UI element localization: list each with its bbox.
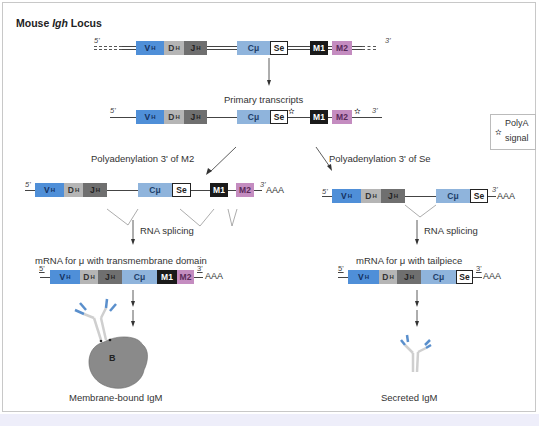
segment-cmu: Cμ bbox=[138, 183, 172, 197]
diagram-graphics bbox=[0, 0, 539, 426]
rna-line bbox=[40, 277, 50, 278]
polya-star-icon: ✫ bbox=[288, 108, 295, 116]
segment-jh: JH bbox=[381, 189, 405, 203]
segment-dh: DH bbox=[164, 110, 184, 124]
polya-tail: AAA bbox=[497, 191, 515, 201]
rna-line bbox=[25, 190, 35, 191]
dna-line bbox=[207, 46, 237, 50]
segment-dh: DH bbox=[64, 183, 83, 197]
three-prime-label: 3' bbox=[197, 264, 203, 273]
rna-line bbox=[254, 190, 262, 191]
legend-line1: PolyA bbox=[505, 118, 529, 128]
rna-line bbox=[228, 190, 236, 191]
secreted-antibody-icon bbox=[401, 335, 431, 372]
segment-vh: VH bbox=[136, 41, 164, 55]
segment-se: Se bbox=[270, 41, 288, 55]
segment-cmu: Cμ bbox=[122, 270, 157, 284]
three-prime-label: 3' bbox=[372, 106, 378, 115]
rna-splicing-right-label: RNA splicing bbox=[424, 225, 478, 236]
dashed-extension bbox=[362, 46, 376, 50]
segment-dh: DH bbox=[379, 270, 397, 284]
polya-star-icon: ✫ bbox=[354, 108, 361, 116]
segment-vh: VH bbox=[35, 183, 64, 197]
segment-jh: JH bbox=[98, 270, 122, 284]
five-prime-label: 5' bbox=[338, 264, 344, 273]
segment-cmu: Cμ bbox=[421, 270, 456, 284]
primary-transcripts-label: Primary transcripts bbox=[224, 94, 303, 105]
b-cell-label: B bbox=[109, 353, 116, 363]
five-prime-label: 5' bbox=[25, 180, 31, 189]
segment-dh: DH bbox=[361, 189, 381, 203]
dna-line bbox=[122, 46, 136, 50]
segment-vh: VH bbox=[136, 110, 164, 124]
segment-se: Se bbox=[270, 110, 288, 124]
segment-vh: VH bbox=[50, 270, 80, 284]
rna-line bbox=[107, 190, 138, 191]
segment-m1: M1 bbox=[157, 270, 177, 284]
rna-line bbox=[194, 277, 203, 278]
segment-cmu: Cμ bbox=[237, 41, 270, 55]
rna-line bbox=[488, 196, 496, 197]
segment-se: Se bbox=[456, 270, 473, 284]
segment-m2: M2 bbox=[236, 183, 254, 197]
segment-se: Se bbox=[470, 189, 488, 203]
membrane-bound-igm-label: Membrane-bound IgM bbox=[69, 392, 162, 403]
b-cell-icon bbox=[89, 337, 148, 388]
three-prime-label: 3' bbox=[260, 180, 266, 189]
legend-line2: signal bbox=[505, 133, 529, 143]
five-prime-label: 5' bbox=[322, 187, 328, 196]
rna-line bbox=[338, 277, 348, 278]
mrna-transmembrane-label: mRNA for μ with transmembrane domain bbox=[35, 255, 207, 266]
star-icon: ✫ bbox=[495, 128, 502, 137]
polya-legend: ✫ PolyA signal bbox=[490, 114, 536, 150]
segment-vh: VH bbox=[348, 270, 379, 284]
segment-vh: VH bbox=[332, 189, 361, 203]
segment-dh: DH bbox=[164, 41, 184, 55]
polya-tail: AAA bbox=[205, 271, 223, 281]
polyadenylation-se-label: Polyadenylation 3' of Se bbox=[329, 153, 431, 164]
segment-jh: JH bbox=[184, 41, 207, 55]
mrna-tailpiece-label: mRNA for μ with tailpiece bbox=[356, 255, 462, 266]
three-prime-label: 3' bbox=[385, 36, 391, 45]
five-prime-label: 5' bbox=[94, 36, 100, 45]
rna-line bbox=[352, 117, 382, 118]
rna-line bbox=[473, 277, 482, 278]
segment-m1: M1 bbox=[310, 110, 328, 124]
three-prime-label: 3' bbox=[476, 264, 482, 273]
segment-cmu: Cμ bbox=[436, 189, 470, 203]
segment-m2: M2 bbox=[332, 110, 352, 124]
segment-cmu: Cμ bbox=[237, 110, 270, 124]
rna-splicing-left-label: RNA splicing bbox=[140, 225, 194, 236]
secreted-igm-label: Secreted IgM bbox=[381, 392, 438, 403]
rna-line bbox=[110, 117, 136, 118]
five-prime-label: 5' bbox=[39, 264, 45, 273]
rna-line bbox=[207, 117, 237, 118]
segment-m2: M2 bbox=[177, 270, 194, 284]
polya-tail: AAA bbox=[483, 271, 501, 281]
segment-jh: JH bbox=[83, 183, 107, 197]
rna-line bbox=[288, 117, 310, 118]
rna-line bbox=[405, 196, 436, 197]
polyadenylation-m2-label: Polyadenylation 3' of M2 bbox=[91, 153, 194, 164]
segment-m1: M1 bbox=[310, 41, 328, 55]
segment-jh: JH bbox=[397, 270, 421, 284]
rna-line bbox=[191, 190, 210, 191]
segment-dh: DH bbox=[80, 270, 98, 284]
five-prime-label: 5' bbox=[110, 106, 116, 115]
membrane-antibody-icon bbox=[75, 299, 116, 342]
segment-se: Se bbox=[172, 183, 191, 197]
segment-m1: M1 bbox=[210, 183, 228, 197]
dna-line bbox=[288, 46, 310, 50]
segment-m2: M2 bbox=[332, 41, 352, 55]
dna-line bbox=[352, 46, 362, 50]
segment-jh: JH bbox=[184, 110, 207, 124]
dashed-extension bbox=[94, 46, 122, 50]
polya-tail: AAA bbox=[266, 185, 284, 195]
rna-line bbox=[322, 196, 332, 197]
